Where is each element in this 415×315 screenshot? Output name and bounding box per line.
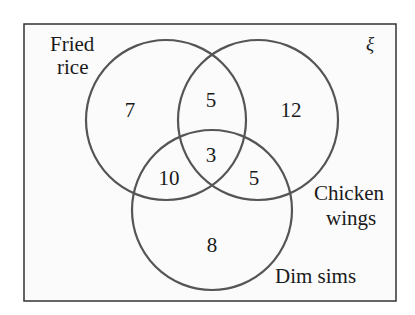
fried-rice-label-line-2: rice <box>57 55 88 79</box>
region-chicken-wings-only: 12 <box>281 98 302 122</box>
fried-rice-label-line-1: Fried <box>50 32 95 56</box>
region-all-three: 3 <box>206 143 217 167</box>
universal-set-symbol: ξ <box>366 33 375 54</box>
region-fried-rice-chicken-wings: 5 <box>206 88 217 112</box>
chicken-wings-label-line-1: Chicken <box>314 181 384 205</box>
region-fried-rice-dim-sims: 10 <box>159 166 180 190</box>
venn-diagram: ξ Fried rice Chicken wings Dim sims 7 5 … <box>0 0 415 315</box>
chicken-wings-label-line-2: wings <box>326 206 376 230</box>
region-fried-rice-only: 7 <box>125 98 136 122</box>
dim-sims-label: Dim sims <box>275 264 356 288</box>
region-dim-sims-only: 8 <box>207 233 218 257</box>
region-chicken-wings-dim-sims: 5 <box>249 166 260 190</box>
